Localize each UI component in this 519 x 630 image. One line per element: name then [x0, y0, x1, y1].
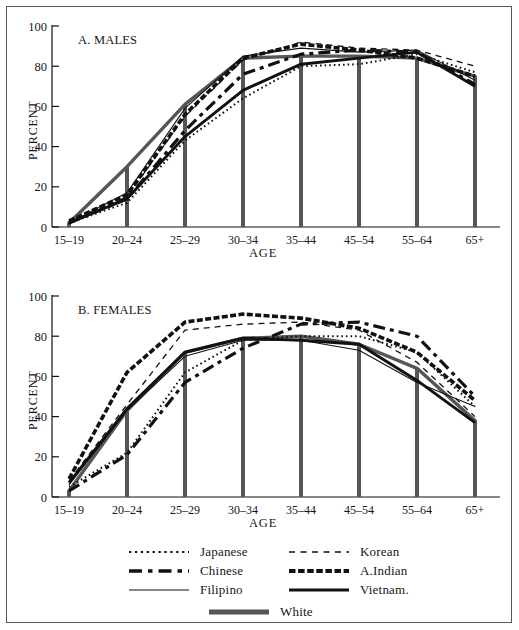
legend-item-korean: Korean	[288, 544, 399, 560]
legend-row-1-col-0: Chinese	[128, 563, 243, 579]
legend-swatch-vietnam	[288, 583, 350, 597]
legend-label-japanese: Japanese	[200, 544, 248, 560]
svg-text:15–19: 15–19	[54, 233, 84, 247]
legend-label-vietnam: Vietnam.	[360, 582, 409, 598]
svg-text:20: 20	[35, 180, 48, 194]
legend-label-korean: Korean	[360, 544, 399, 560]
svg-text:65+: 65+	[466, 503, 485, 517]
svg-text:100: 100	[28, 290, 47, 304]
svg-text:100: 100	[28, 20, 47, 34]
svg-text:45–54: 45–54	[344, 503, 374, 517]
svg-text:55–64: 55–64	[402, 233, 432, 247]
legend-swatch-white	[208, 605, 270, 619]
legend-item-white: White	[208, 604, 313, 620]
legend-row-3-white: White	[208, 604, 313, 620]
legend-swatch-chinese	[128, 564, 190, 578]
legend-swatch-korean	[288, 545, 350, 559]
svg-text:80: 80	[35, 60, 48, 74]
svg-text:35–44: 35–44	[286, 233, 316, 247]
legend-item-filipino: Filipino	[128, 582, 243, 598]
svg-text:20: 20	[35, 450, 48, 464]
svg-text:35–44: 35–44	[286, 503, 316, 517]
legend-row-2-col-1: Vietnam.	[288, 582, 409, 598]
svg-text:20–24: 20–24	[112, 233, 142, 247]
chart-panel-females: 02040608010015–1920–2425–2930–3435–4445–…	[0, 270, 519, 538]
legend-row-0-col-1: Korean	[288, 544, 399, 560]
legend-swatch-japanese	[128, 545, 190, 559]
y-axis-label-males: PERCENT	[26, 100, 41, 160]
panel-title-males: A. MALES	[78, 33, 137, 48]
figure-root: 02040608010015–1920–2425–2930–3435–4445–…	[0, 0, 519, 630]
legend-row-1-col-1: A.Indian	[288, 563, 407, 579]
legend-swatch-filipino	[128, 583, 190, 597]
svg-text:55–64: 55–64	[402, 503, 432, 517]
svg-text:30–34: 30–34	[228, 233, 258, 247]
legend-label-aindian: A.Indian	[360, 563, 407, 579]
svg-text:25–29: 25–29	[170, 233, 200, 247]
legend-label-filipino: Filipino	[200, 582, 243, 598]
x-axis-label-males: AGE	[249, 246, 277, 261]
legend-row-0-col-0: Japanese	[128, 544, 248, 560]
svg-text:0: 0	[41, 221, 47, 235]
chart-panel-males: 02040608010015–1920–2425–2930–3435–4445–…	[0, 0, 519, 270]
x-axis-label-females: AGE	[249, 516, 277, 531]
panel-title-females: B. FEMALES	[78, 303, 152, 318]
svg-text:25–29: 25–29	[170, 503, 200, 517]
svg-text:30–34: 30–34	[228, 503, 258, 517]
legend-item-japanese: Japanese	[128, 544, 248, 560]
legend-label-chinese: Chinese	[200, 563, 243, 579]
svg-text:0: 0	[41, 491, 47, 505]
svg-text:20–24: 20–24	[112, 503, 142, 517]
legend-row-2-col-0: Filipino	[128, 582, 243, 598]
legend-item-vietnam: Vietnam.	[288, 582, 409, 598]
chart-legend: Japanese Korean Chinese	[0, 538, 519, 626]
svg-text:15–19: 15–19	[54, 503, 84, 517]
y-axis-label-females: PERCENT	[26, 370, 41, 430]
svg-text:65+: 65+	[466, 233, 485, 247]
svg-text:80: 80	[35, 330, 48, 344]
legend-swatch-aindian	[288, 564, 350, 578]
legend-item-aindian: A.Indian	[288, 563, 407, 579]
legend-item-chinese: Chinese	[128, 563, 243, 579]
legend-label-white: White	[280, 604, 313, 620]
svg-text:45–54: 45–54	[344, 233, 374, 247]
